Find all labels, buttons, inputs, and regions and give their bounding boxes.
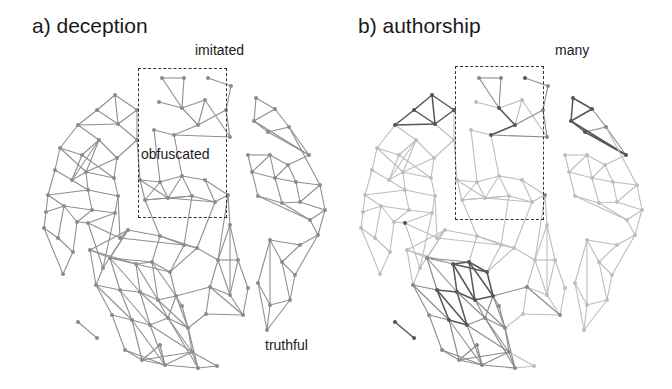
graph-edge	[475, 300, 485, 318]
graph-edge	[527, 287, 560, 315]
graph-node	[56, 236, 60, 240]
graph-edge	[48, 170, 55, 195]
graph-node	[298, 200, 302, 204]
graph-node	[134, 262, 138, 266]
graph-edge	[288, 155, 309, 165]
graph-node	[44, 210, 48, 214]
graph-edge	[128, 230, 160, 236]
graph-edge	[405, 190, 409, 210]
graph-edge	[118, 124, 137, 140]
graph-node	[163, 363, 167, 367]
graph-edge	[275, 178, 296, 182]
graph-edge	[228, 195, 230, 225]
graph-node	[293, 273, 297, 277]
graph-edge	[407, 250, 413, 285]
graph-edge	[394, 210, 409, 222]
graph-edge	[197, 248, 218, 260]
graph-edge	[389, 180, 405, 190]
graph-edge	[92, 210, 115, 213]
graph-node	[204, 312, 208, 316]
graph-edge	[97, 110, 118, 124]
graph-node	[168, 270, 172, 274]
graph-node	[467, 260, 471, 264]
graph-node	[451, 262, 455, 266]
graph-edge	[405, 190, 435, 196]
graph-edge	[547, 225, 555, 260]
panel-authorship: b) authorship many	[317, 0, 672, 389]
graph-edge	[365, 190, 405, 195]
graph-node	[95, 336, 99, 340]
graph-edge	[527, 260, 535, 287]
graph-edge	[390, 222, 394, 252]
graph-edge	[120, 290, 140, 292]
graph-node	[573, 281, 577, 285]
graph-edge	[527, 287, 547, 295]
graph-node	[393, 123, 397, 127]
graph-edge	[427, 258, 437, 290]
graph-node	[440, 348, 444, 352]
graph-edge	[230, 260, 238, 295]
graph-edge	[372, 148, 377, 170]
graph-node	[196, 366, 200, 370]
graph-edge	[99, 140, 117, 158]
graph-node	[266, 130, 270, 134]
graph-node	[148, 323, 152, 327]
graph-node	[545, 135, 549, 139]
graph-edge	[115, 95, 137, 110]
graph-edge	[210, 260, 218, 287]
graph-edge	[282, 245, 300, 262]
graph-node	[573, 194, 577, 198]
graph-edge	[405, 213, 432, 223]
graph-edge	[505, 314, 523, 328]
graph-edge	[569, 172, 575, 196]
graph-node	[403, 221, 407, 225]
graph-edge	[270, 155, 275, 178]
graph-edge	[487, 248, 514, 272]
graph-node	[615, 200, 619, 204]
graph-node	[378, 272, 382, 276]
graph-edge	[218, 225, 230, 260]
graph-node	[215, 364, 219, 368]
graph-node	[186, 326, 190, 330]
graph-edge	[613, 182, 637, 185]
graph-node	[567, 170, 571, 174]
graph-edge	[363, 195, 365, 212]
graph-edge	[176, 287, 210, 296]
graph-node	[76, 123, 80, 127]
graph-edge	[243, 288, 248, 315]
graph-edge	[575, 283, 584, 330]
graph-node	[88, 248, 92, 252]
graph-node	[112, 176, 116, 180]
graph-node	[116, 194, 120, 198]
graph-node	[307, 153, 311, 157]
graph-edge	[431, 178, 435, 196]
graph-edge	[592, 178, 613, 182]
graph-node	[387, 178, 391, 182]
graph-node	[370, 168, 374, 172]
graph-edge	[435, 110, 454, 124]
graph-node	[503, 326, 507, 330]
graph-edge	[188, 314, 206, 328]
graph-edge	[44, 212, 46, 228]
cluster-label-many: many	[555, 42, 589, 58]
graph-edge	[120, 290, 150, 325]
graph-edge	[115, 95, 118, 124]
graph-node	[115, 156, 119, 160]
graph-node	[611, 180, 615, 184]
graph-node	[375, 146, 379, 150]
graph-edge	[592, 165, 605, 178]
graph-edge	[252, 172, 275, 178]
graph-edge	[114, 178, 118, 196]
graph-node	[418, 266, 422, 270]
graph-node	[86, 188, 90, 192]
graph-edge	[413, 285, 429, 315]
graph-edge	[238, 260, 248, 288]
graph-node	[433, 122, 437, 126]
graph-edge	[482, 365, 515, 368]
graph-edge	[96, 285, 112, 315]
graph-edge	[381, 206, 409, 210]
cluster-label-obfuscated: obfuscated	[141, 146, 210, 162]
graph-edge	[493, 287, 527, 296]
graph-edge	[254, 98, 256, 121]
graph-node	[256, 194, 260, 198]
